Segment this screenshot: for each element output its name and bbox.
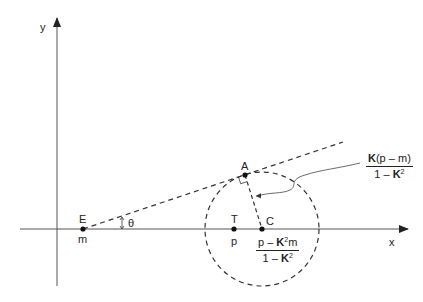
x-axis-label: x <box>389 237 395 248</box>
leader-curve <box>257 163 360 196</box>
radius-line <box>245 175 262 229</box>
angle-theta-label: θ <box>128 218 134 229</box>
point-T-label: T <box>231 214 238 225</box>
y-axis-label: y <box>40 22 46 33</box>
point-A <box>242 172 247 177</box>
point-T <box>231 226 236 231</box>
point-C-label: C <box>266 216 274 227</box>
point-E-value: m <box>78 234 87 245</box>
diagram-canvas <box>0 0 423 302</box>
point-E-label: E <box>79 214 86 225</box>
point-A-label: A <box>241 161 248 172</box>
point-T-value: p <box>231 236 237 247</box>
radius-formula: K(p – m) 1 – K2 <box>366 153 413 180</box>
point-E <box>80 226 85 231</box>
point-C <box>259 226 264 231</box>
center-formula: p – K2m 1 – K2 <box>256 237 299 264</box>
dashed-ray <box>83 142 343 229</box>
